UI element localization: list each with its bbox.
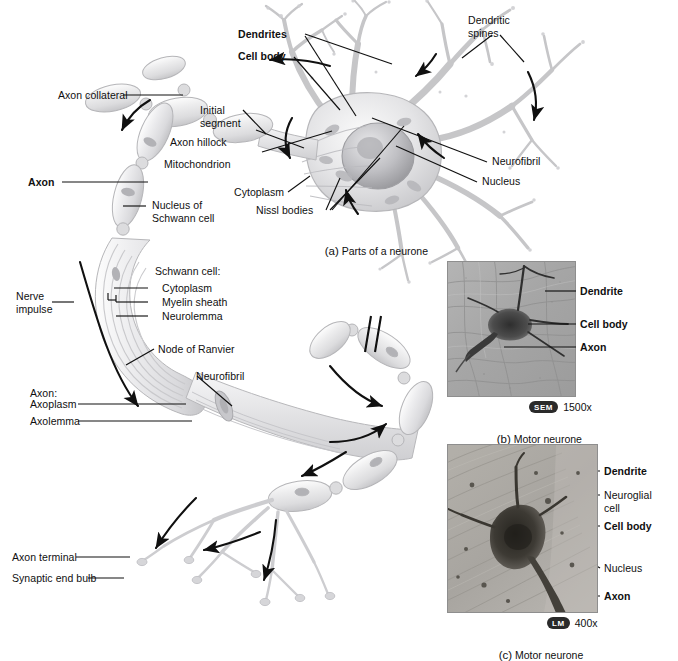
- magnification-c: 400x: [575, 617, 598, 629]
- label-c-axon: Axon: [604, 590, 630, 603]
- label-b-cell-body: Cell body: [580, 318, 628, 331]
- label-b-axon: Axon: [580, 341, 606, 354]
- neurone-figure: Dendrites Cell body Dendritic spines Axo…: [0, 0, 678, 661]
- label-b-dendrite: Dendrite: [580, 285, 623, 298]
- figure-caption: Figure 11.1 Examples of neurones. Source…: [8, 650, 678, 661]
- label-c-nucleus: Nucleus: [604, 562, 642, 575]
- magnification-b: 1500x: [563, 401, 592, 413]
- scale-type-c: LM: [547, 617, 570, 629]
- scale-badge-c: LM 400x: [547, 617, 598, 629]
- label-c-cell-body: Cell body: [604, 520, 652, 533]
- micrograph-panel-c: [447, 444, 598, 613]
- scale-type-b: SEM: [529, 401, 558, 413]
- scale-badge-b: SEM 1500x: [529, 401, 592, 413]
- label-c-neuroglial-cell: Neuroglial cell: [604, 489, 652, 514]
- label-c-dendrite: Dendrite: [604, 465, 647, 478]
